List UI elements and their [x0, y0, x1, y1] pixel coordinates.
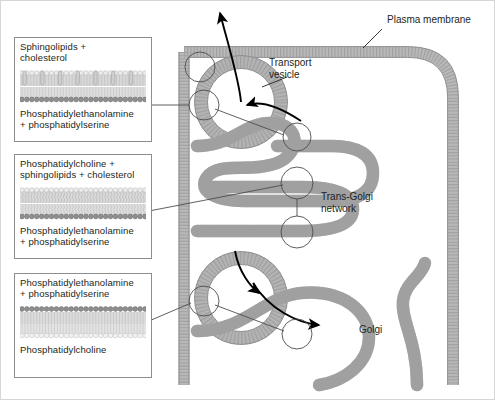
label-golgi: Golgi — [359, 324, 382, 336]
panel1-bottom-caption: Phosphatidylethanolamine + phosphatidyls… — [15, 105, 151, 133]
panel1-top-line2: cholesterol — [20, 52, 147, 63]
panel2-bottom-line1: Phosphatidylethanolamine — [20, 225, 147, 236]
panel3-bilayer — [20, 303, 146, 341]
panel2-bilayer — [20, 184, 146, 222]
panel1-top-line1: Sphingolipids + — [20, 41, 147, 52]
label-transport-vesicle-line2: vesicle — [269, 69, 311, 81]
panel3-bottom-line1: Phosphatidylcholine — [20, 344, 147, 355]
label-trans-golgi-line2: network — [321, 203, 373, 215]
label-trans-golgi-line1: Trans-Golgi — [321, 191, 373, 203]
label-trans-golgi-network: Trans-Golgi network — [321, 191, 373, 215]
plasma-membrane-leader — [363, 29, 382, 48]
panel3-bottom-caption: Phosphatidylcholine — [15, 341, 151, 357]
panel1-bilayer — [20, 67, 146, 105]
panel1-bottom-line2: + phosphatidylserine — [20, 119, 147, 130]
label-transport-vesicle: Transport vesicle — [269, 57, 311, 81]
panel3-top-line1: Phosphatidylethanolamine — [20, 277, 147, 288]
panel3-top-caption: Phosphatidylethanolamine + phosphatidyls… — [15, 274, 151, 302]
panel-golgi: Phosphatidylethanolamine + phosphatidyls… — [14, 273, 152, 378]
panel2-top-line2: sphingolipids + cholesterol — [20, 169, 147, 180]
label-plasma-membrane: Plasma membrane — [387, 14, 471, 26]
panel1-top-caption: Sphingolipids + cholesterol — [15, 38, 151, 66]
callout-golgi — [282, 319, 312, 349]
label-transport-vesicle-line1: Transport — [269, 57, 311, 69]
figure-container: Plasma membrane Transport vesicle Trans-… — [0, 0, 495, 400]
panel2-top-line1: Phosphatidylcholine + — [20, 158, 147, 169]
panel1-bottom-line1: Phosphatidylethanolamine — [20, 108, 147, 119]
panel2-bottom-caption: Phosphatidylethanolamine + phosphatidyls… — [15, 222, 151, 250]
panel-plasma-membrane: Sphingolipids + cholesterol — [14, 37, 152, 142]
panel-trans-golgi-network: Phosphatidylcholine + sphingolipids + ch… — [14, 154, 152, 259]
panel2-bottom-line2: + phosphatidylserine — [20, 236, 147, 247]
panel2-top-caption: Phosphatidylcholine + sphingolipids + ch… — [15, 155, 151, 183]
panel3-top-line2: + phosphatidylserine — [20, 288, 147, 299]
